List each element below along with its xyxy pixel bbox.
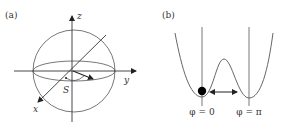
phi-pi-label: φ = π [236, 107, 262, 117]
particle-ball [198, 87, 206, 95]
potential-curve [175, 33, 273, 98]
z-axis-label: z [76, 11, 82, 21]
y-axis-label: y [123, 75, 130, 85]
angle-arc [66, 76, 84, 81]
panel-b-double-well: (b) φ = 0 φ = π [162, 10, 273, 117]
spin-vector [73, 71, 93, 79]
panel-a-label: (a) [5, 10, 17, 20]
phi-zero-label: φ = 0 [189, 107, 215, 117]
figure: (a) z y x S (b) φ = 0 φ = π [0, 0, 287, 126]
arc-endpoint-dot [65, 77, 67, 79]
x-axis-label: x [33, 104, 38, 114]
panel-b-label: (b) [162, 10, 175, 20]
panel-a-bloch-sphere: (a) z y x S [5, 10, 136, 122]
spin-vector-label: S [63, 85, 69, 95]
